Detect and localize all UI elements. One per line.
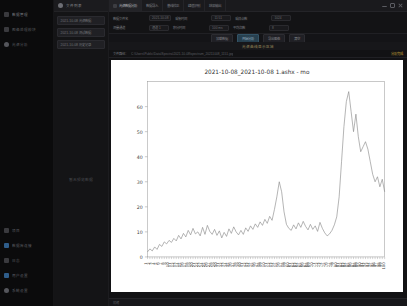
- sidebar-item-label: 图像处理模块: [12, 27, 37, 32]
- sidebar-item-label: 用户设置: [12, 273, 28, 278]
- left-sidebar: 数据管理 图像处理模块 光谱分析 项目 数据库连接 日志: [0, 0, 54, 306]
- tab-label: 峰值识别: [188, 3, 200, 8]
- status-badge: 分析完成: [391, 51, 403, 56]
- tab-result-export[interactable]: 结果输出: [205, 0, 226, 11]
- field-value: 100 ms: [212, 26, 222, 30]
- sample-count-input[interactable]: 1024: [271, 15, 291, 21]
- status-bar: 就绪: [109, 298, 407, 306]
- parameter-form: 数据文件名 2021-10-08 采集时间 11:51 采样点数 1024 测量…: [109, 12, 407, 33]
- sidebar-item-label: 项目: [12, 228, 20, 233]
- image-icon: [4, 27, 9, 32]
- empty-state-label: 暂无预览数据: [69, 177, 93, 182]
- sidebar-item-label: 日志: [12, 258, 20, 263]
- sidebar-item-user-settings[interactable]: 用户设置: [0, 270, 53, 281]
- sidebar-item-project[interactable]: 项目: [0, 225, 53, 236]
- tab-peak-detection[interactable]: 峰值识别: [184, 0, 205, 11]
- tab-bar-spacer: [226, 0, 378, 11]
- y-tick-label: 60: [137, 104, 143, 109]
- sidebar-item-label: 数据管理: [12, 12, 28, 17]
- file-list-title: 文件列表: [66, 3, 82, 8]
- file-list: 2021-10-08 光谱数据 2021-10-08 测试数据 2021-10-…: [54, 12, 109, 52]
- log-icon: [4, 258, 9, 263]
- field-value: 8: [272, 26, 274, 30]
- tab-spectrum-analysis[interactable]: 光谱数据分析: [109, 0, 142, 11]
- action-button-row: 加载数据 开始分析 导出图像 清空: [109, 33, 407, 42]
- integration-time-input[interactable]: 100 ms: [209, 25, 229, 31]
- list-item[interactable]: 2021-10-08 测试数据: [57, 28, 106, 37]
- list-item[interactable]: 2021-10-08 历史记录: [57, 40, 106, 49]
- section-header: 光谱曲线显示区域: [109, 42, 407, 50]
- field-label: 平均次数: [233, 25, 265, 30]
- file-list-panel: 文件列表 2021-10-08 光谱数据 2021-10-08 测试数据 202…: [54, 0, 110, 306]
- application-window: 数据管理 图像处理模块 光谱分析 项目 数据库连接 日志: [0, 0, 407, 306]
- sidebar-item-database[interactable]: 数据库连接: [0, 240, 53, 251]
- y-tick-label: 30: [137, 180, 143, 185]
- tab-label: 光谱数据分析: [119, 3, 137, 8]
- panel-status-dot-icon: [58, 3, 63, 8]
- list-item[interactable]: 2021-10-08 光谱数据: [57, 16, 106, 25]
- sidebar-item-log[interactable]: 日志: [0, 255, 53, 266]
- path-value: C:\Users\Public\Data\Spectra\2021-10-08\…: [131, 52, 233, 56]
- form-row: 测量通道 通道 1 积分时间 100 ms 平均次数 8: [113, 24, 403, 32]
- y-tick-label: 10: [137, 230, 143, 235]
- list-item-label: 2021-10-08 历史记录: [61, 42, 91, 47]
- channel-select[interactable]: 通道 1: [149, 25, 169, 31]
- sidebar-item-label: 系统设置: [12, 288, 28, 293]
- sidebar-item-label: 数据库连接: [12, 243, 33, 248]
- main-content: 光谱数据分析 数据导入 基线校正 峰值识别 结果输出: [109, 0, 407, 306]
- field-value: 2021-10-08: [152, 16, 168, 20]
- tab-label: 结果输出: [209, 3, 221, 8]
- capture-time-input[interactable]: 11:51: [211, 15, 231, 21]
- field-label: 采集时间: [175, 16, 207, 21]
- sidebar-top-group: 数据管理 图像处理模块 光谱分析: [0, 9, 53, 54]
- chart-panel[interactable]: 2021-10-08_2021-10-08 1.ashx - mo 010203…: [111, 60, 403, 292]
- folder-icon: [4, 12, 9, 17]
- tab-label: 基线校正: [167, 3, 179, 8]
- field-label: 数据文件名: [113, 16, 145, 21]
- sidebar-bottom-group: 项目 数据库连接 日志 用户设置 系统设置: [0, 225, 53, 306]
- tab-baseline-correction[interactable]: 基线校正: [163, 0, 184, 11]
- x-tick-label: 100: [382, 262, 386, 270]
- tab-bar: 光谱数据分析 数据导入 基线校正 峰值识别 结果输出: [109, 0, 407, 12]
- database-icon: [4, 243, 9, 248]
- close-icon[interactable]: [398, 3, 403, 8]
- preview-empty-state: 暂无预览数据: [54, 52, 109, 306]
- maximize-icon[interactable]: [390, 3, 395, 8]
- y-tick-label: 40: [137, 155, 143, 160]
- sidebar-item-spectrum-analysis[interactable]: 光谱分析: [0, 39, 53, 50]
- spectrum-chart: 2021-10-08_2021-10-08 1.ashx - mo 010203…: [111, 60, 403, 292]
- file-path-bar: 文件路径： C:\Users\Public\Data\Spectra\2021-…: [109, 50, 407, 58]
- tab-icon: [113, 4, 117, 8]
- field-value: 通道 1: [152, 25, 161, 30]
- field-value: 1024: [274, 16, 281, 20]
- sidebar-spacer: [0, 54, 53, 225]
- grid-icon: [4, 228, 9, 233]
- user-icon: [4, 273, 9, 278]
- tab-data-import[interactable]: 数据导入: [142, 0, 163, 11]
- path-label: 文件路径：: [113, 51, 128, 56]
- chart-icon: [4, 42, 9, 47]
- window-controls: [378, 0, 407, 11]
- y-tick-label: 0: [140, 255, 143, 260]
- sidebar-item-data-management[interactable]: 数据管理: [0, 9, 53, 20]
- sidebar-item-system-settings[interactable]: 系统设置: [0, 285, 53, 296]
- average-count-input[interactable]: 8: [269, 25, 289, 31]
- sidebar-item-image-processing[interactable]: 图像处理模块: [0, 24, 53, 35]
- form-row: 数据文件名 2021-10-08 采集时间 11:51 采样点数 1024: [113, 14, 403, 22]
- tab-label: 数据导入: [146, 3, 158, 8]
- chart-title: 2021-10-08_2021-10-08 1.ashx - mo: [205, 69, 310, 76]
- list-item-label: 2021-10-08 测试数据: [61, 30, 91, 35]
- list-item-label: 2021-10-08 光谱数据: [61, 18, 91, 23]
- field-label: 测量通道: [113, 25, 145, 30]
- status-text: 就绪: [113, 300, 119, 305]
- y-tick-label: 50: [137, 130, 143, 135]
- file-list-header: 文件列表: [54, 0, 109, 12]
- minimize-icon[interactable]: [382, 4, 387, 7]
- sidebar-item-label: 光谱分析: [12, 42, 28, 47]
- y-tick-label: 20: [137, 205, 143, 210]
- field-value: 11:51: [214, 16, 222, 20]
- gear-icon: [4, 288, 9, 293]
- field-label: 采样点数: [235, 16, 267, 21]
- field-label: 积分时间: [173, 25, 205, 30]
- data-file-input[interactable]: 2021-10-08: [149, 15, 171, 21]
